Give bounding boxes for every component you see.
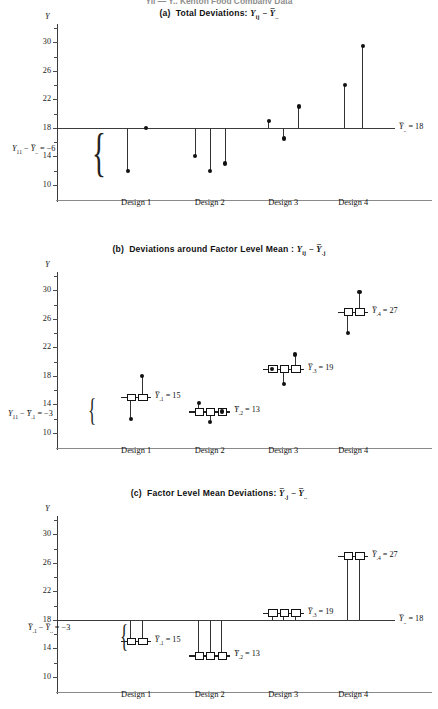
mean-square-b-3-3 xyxy=(291,365,300,372)
panel-total-deviations: (a) Total Deviations: Yij − Y..Y10141822… xyxy=(0,0,438,232)
y-tick-minor-c-24 xyxy=(54,577,58,578)
data-point-a-3-1 xyxy=(267,119,271,123)
y-tick-label-b-30: 30 xyxy=(27,285,51,294)
x-axis-label-b-4: Design 4 xyxy=(313,446,393,455)
stem-a-4-2 xyxy=(362,46,363,128)
stem-c-2-1 xyxy=(198,620,199,656)
grand-mean-label-c: Y.. = 18 xyxy=(399,614,423,625)
mean-square-c-4-2 xyxy=(355,552,364,559)
mean-square-b-4-2 xyxy=(355,308,364,315)
stem-c-2-2 xyxy=(210,620,211,656)
factor-mean-label-c-2: Y.2 = 13 xyxy=(234,649,260,660)
y-tick-minor-a-24 xyxy=(54,85,58,86)
annotation-a: Y11 − Y.. = −6 xyxy=(12,144,55,155)
brace-a: { xyxy=(92,126,106,179)
data-point-a-4-2 xyxy=(361,44,365,48)
y-tick-label-c-14: 14 xyxy=(27,643,51,652)
data-point-b-1-1 xyxy=(129,417,133,421)
data-point-a-2-3 xyxy=(223,161,227,165)
mean-square-c-4-1 xyxy=(344,552,353,559)
y-tick-major-c-26 xyxy=(53,563,58,564)
factor-mean-label-b-3: Y.3 = 19 xyxy=(308,363,334,374)
mean-square-c-2-3 xyxy=(218,652,227,659)
y-tick-minor-a-20 xyxy=(54,114,58,115)
data-point-b-4-1 xyxy=(346,331,350,335)
y-tick-major-c-22 xyxy=(53,591,58,592)
y-tick-minor-a-28 xyxy=(54,57,58,58)
y-tick-label-a-10: 10 xyxy=(27,180,51,189)
stem-c-2-3 xyxy=(221,620,222,656)
data-point-b-2-2 xyxy=(208,420,212,424)
y-tick-minor-b-32 xyxy=(54,276,58,277)
y-tick-major-b-14 xyxy=(53,404,58,405)
data-point-a-1-2 xyxy=(144,126,148,130)
panel-title-b: (b) Deviations around Factor Level Mean … xyxy=(0,244,438,256)
factor-mean-label-b-2: Y.2 = 13 xyxy=(234,405,260,416)
x-axis-label-c-1: Design 1 xyxy=(96,690,176,699)
stem-a-2-2 xyxy=(210,128,211,171)
grand-mean-label-a: Y.. = 18 xyxy=(399,122,423,133)
y-tick-major-c-30 xyxy=(53,534,58,535)
data-point-b-3-3 xyxy=(293,352,297,356)
data-point-a-1-1 xyxy=(126,169,130,173)
y-tick-major-b-10 xyxy=(53,433,58,434)
x-axis-label-a-4: Design 4 xyxy=(313,198,393,207)
mean-square-c-3-1 xyxy=(268,609,277,616)
stem-a-2-1 xyxy=(195,128,196,157)
stem-a-2-3 xyxy=(225,128,226,164)
data-point-a-4-1 xyxy=(343,83,347,87)
mean-square-b-3-2 xyxy=(280,365,289,372)
mean-square-c-3-2 xyxy=(280,609,289,616)
panel-title-a: (a) Total Deviations: Yij − Y.. xyxy=(0,8,438,20)
data-point-b-4-2 xyxy=(357,290,361,294)
factor-mean-label-c-1: Y.1 = 15 xyxy=(155,635,181,646)
y-tick-major-b-26 xyxy=(53,319,58,320)
data-point-a-3-3 xyxy=(297,104,301,108)
annotation-b: Y11 − Y.1 = −3 xyxy=(8,409,53,420)
stem-a-3-3 xyxy=(298,106,299,127)
panel-factor-level-mean-deviations: (c) Factor Level Mean Deviations: Y.j − … xyxy=(0,480,438,709)
y-tick-label-a-22: 22 xyxy=(27,94,51,103)
y-tick-minor-c-28 xyxy=(54,549,58,550)
factor-mean-label-b-4: Y.4 = 27 xyxy=(372,306,398,317)
y-tick-major-b-18 xyxy=(53,376,58,377)
x-axis-label-c-4: Design 4 xyxy=(313,690,393,699)
x-axis-label-c-3: Design 3 xyxy=(243,690,323,699)
mean-square-b-1-1 xyxy=(127,394,136,401)
x-axis-label-a-1: Design 1 xyxy=(96,198,176,207)
mean-square-c-1-2 xyxy=(138,638,147,645)
data-point-b-1-2 xyxy=(140,374,144,378)
data-point-b-2-3 xyxy=(220,409,224,413)
mean-square-b-1-2 xyxy=(138,394,147,401)
factor-mean-label-c-4: Y.4 = 27 xyxy=(372,550,398,561)
stem-c-4-2 xyxy=(359,556,360,620)
y-tick-major-c-10 xyxy=(53,677,58,678)
y-tick-label-c-10: 10 xyxy=(27,672,51,681)
data-point-b-2-1 xyxy=(197,401,201,405)
y-axis-label-b: Y xyxy=(45,260,50,269)
y-tick-minor-b-16 xyxy=(54,390,58,391)
y-tick-minor-c-12 xyxy=(54,663,58,664)
y-tick-major-a-14 xyxy=(53,156,58,157)
annotation-c: Y.1 − Y.. = −3 xyxy=(28,623,70,634)
panel-deviations-around-factor-level-mean: (b) Deviations around Factor Level Mean … xyxy=(0,234,438,480)
x-axis-label-b-2: Design 2 xyxy=(170,446,250,455)
y-tick-label-b-26: 26 xyxy=(27,314,51,323)
data-point-a-2-2 xyxy=(208,169,212,173)
y-tick-minor-a-12 xyxy=(54,171,58,172)
y-tick-major-b-30 xyxy=(53,290,58,291)
x-axis-label-a-2: Design 2 xyxy=(170,198,250,207)
y-tick-minor-c-32 xyxy=(54,520,58,521)
grand-mean-line xyxy=(57,128,395,129)
y-tick-major-c-14 xyxy=(53,648,58,649)
brace-c: { xyxy=(120,621,128,652)
y-tick-label-a-26: 26 xyxy=(27,66,51,75)
y-tick-major-a-22 xyxy=(53,99,58,100)
y-tick-minor-b-24 xyxy=(54,333,58,334)
y-tick-label-a-18: 18 xyxy=(27,123,51,132)
y-tick-major-a-10 xyxy=(53,185,58,186)
y-axis-label-c: Y xyxy=(45,504,50,513)
x-axis-label-b-1: Design 1 xyxy=(96,446,176,455)
x-axis-label-a-3: Design 3 xyxy=(243,198,323,207)
y-tick-label-b-22: 22 xyxy=(27,342,51,351)
